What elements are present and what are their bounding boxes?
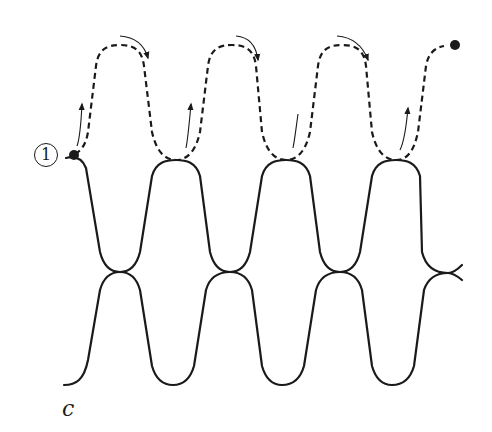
arrow-up-1 <box>77 104 82 146</box>
arrow-up-3 <box>293 114 298 148</box>
dashed-thread-path <box>75 45 444 160</box>
start-dot <box>69 150 79 160</box>
panel-label: c <box>62 396 74 421</box>
lower-solid-curve <box>64 272 448 385</box>
arrow-up-2 <box>186 104 191 148</box>
start-marker-label: 1 <box>34 143 58 167</box>
knitting-diagram <box>0 0 492 432</box>
upper-solid-curve <box>66 157 462 273</box>
end-dot <box>450 40 460 50</box>
arrow-up-4 <box>400 108 408 150</box>
upper-curve-end-fork <box>448 273 462 280</box>
